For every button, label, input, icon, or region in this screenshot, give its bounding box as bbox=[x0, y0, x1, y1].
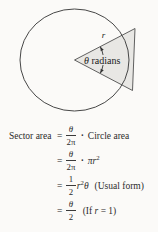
multiplication-dot: · bbox=[81, 131, 84, 141]
usual-form-note: (Usual form) bbox=[95, 181, 144, 191]
formula-block: Sector area = θ 2π · Circle area = θ 2π … bbox=[0, 116, 158, 223]
squared-exponent: 2 bbox=[96, 153, 99, 160]
fraction-denominator: 2 bbox=[69, 186, 73, 197]
page: { "diagram": { "radius_label": "r", "ang… bbox=[0, 0, 158, 232]
formula-line-4: = θ 2 (If r = 1) bbox=[54, 198, 158, 223]
sector-diagram: r θ radians bbox=[0, 0, 158, 116]
note-prefix: (If bbox=[83, 206, 95, 216]
fraction-denominator: 2 bbox=[69, 211, 73, 222]
equals-sign: = bbox=[57, 156, 62, 166]
fraction-denominator: 2π bbox=[67, 161, 76, 172]
fraction-numerator: θ bbox=[66, 199, 75, 211]
fraction-numerator: θ bbox=[66, 149, 75, 161]
theta-variable: θ bbox=[84, 181, 89, 191]
radius-label-text: r bbox=[102, 30, 106, 40]
if-r-equals-1-note: (If r = 1) bbox=[83, 206, 117, 216]
note-suffix: = 1) bbox=[98, 206, 116, 216]
r-squared-theta-term: r2θ bbox=[77, 181, 89, 191]
fraction-numerator: θ bbox=[66, 124, 75, 136]
circle-area-label: Circle area bbox=[88, 131, 129, 141]
equals-sign: = bbox=[57, 131, 62, 141]
equals-sign: = bbox=[57, 181, 62, 191]
equals-sign: = bbox=[57, 206, 62, 216]
angle-label-text: radians bbox=[89, 55, 120, 66]
radius-label: r bbox=[102, 30, 106, 40]
sector-area-label: Sector area bbox=[9, 131, 54, 141]
fraction-theta-2pi: θ 2π bbox=[66, 149, 75, 171]
pi-r-squared-term: πr2 bbox=[88, 156, 100, 166]
angle-label: θ radians bbox=[84, 55, 120, 66]
fraction-theta-2: θ 2 bbox=[66, 199, 75, 221]
fraction-denominator: 2π bbox=[67, 136, 76, 147]
formula-line-3: = 1 2 r2θ (Usual form) bbox=[54, 173, 158, 198]
fraction-one-half: 1 2 bbox=[66, 174, 75, 196]
multiplication-dot: · bbox=[81, 156, 84, 166]
fraction-numerator: 1 bbox=[66, 174, 75, 186]
formula-line-2: = θ 2π · πr2 bbox=[54, 148, 158, 173]
fraction-theta-2pi: θ 2π bbox=[66, 124, 75, 146]
formula-line-1: Sector area = θ 2π · Circle area bbox=[9, 123, 158, 148]
